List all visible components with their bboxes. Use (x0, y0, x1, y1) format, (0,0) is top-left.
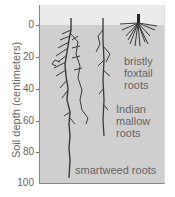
label-line: roots (124, 79, 153, 91)
label-line: Indian (116, 103, 150, 115)
label-line: roots (116, 127, 150, 139)
label-line: bristly (124, 55, 153, 67)
label-line: foxtail (124, 67, 153, 79)
mallow-root-icon (96, 18, 110, 136)
smartweed-root-icon (52, 18, 88, 178)
foxtail-root-icon (120, 14, 157, 46)
foxtail-label: bristly foxtail roots (124, 55, 153, 91)
mallow-label: Indian mallow roots (116, 103, 150, 139)
smartweed-label: smartweed roots (75, 164, 156, 176)
label-line: mallow (116, 115, 150, 127)
